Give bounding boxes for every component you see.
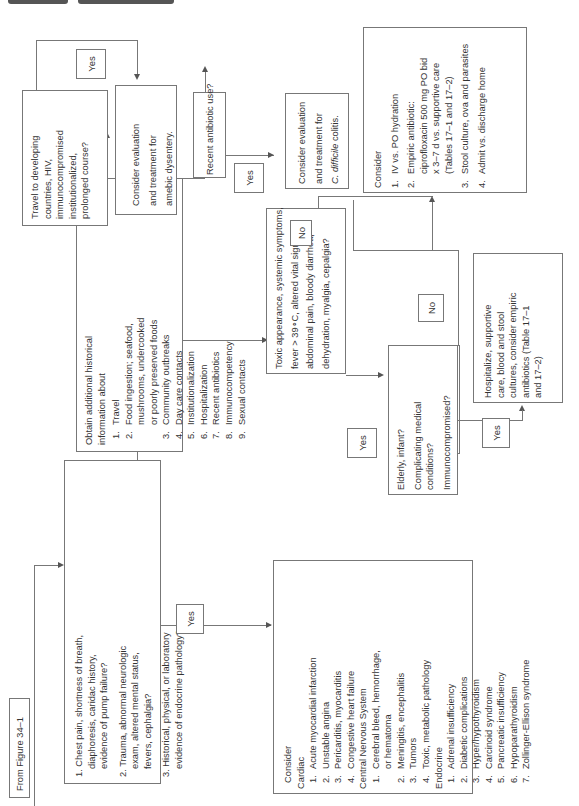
hospitalize-box: Hospitalize, supportive care, blood and … (473, 253, 563, 403)
header-tab-1 (8, 0, 68, 4)
arrow-icon (266, 622, 272, 628)
header-tab-2 (78, 0, 174, 4)
cdiff-box: Consider evaluation and treatment for C.… (285, 93, 349, 189)
connector (183, 178, 205, 179)
connector (346, 375, 382, 376)
no-label: No (290, 220, 312, 246)
yes-label: Yes (234, 163, 264, 193)
differential-box: Consider Cardiac 1.Acute myocardial infa… (273, 560, 473, 794)
outpatient-consider-box: Consider 1.IV vs. PO hydration 2.Empiric… (363, 27, 527, 193)
connector (353, 250, 459, 251)
arrow-icon (429, 196, 435, 202)
connector (183, 340, 265, 341)
connector (346, 375, 347, 376)
initial-questions-box: 1. Chest pain, shortness of breath, diap… (64, 460, 161, 784)
connector (458, 250, 459, 345)
connector (353, 196, 433, 197)
arrow-icon (378, 372, 384, 378)
connector (522, 410, 523, 421)
start-box: From Figure 34–1 (9, 698, 30, 798)
yes-label: Yes (76, 49, 106, 79)
antibiotic-box: Recent antibiotic use? (193, 92, 226, 178)
connector (226, 155, 274, 156)
connector (137, 40, 138, 76)
yes-label: Yes (347, 428, 377, 458)
amebic-box: Consider evaluation and treatment for am… (115, 85, 177, 215)
connector (432, 200, 433, 250)
no-label: No (418, 294, 444, 322)
yes-label: Yes (482, 418, 510, 448)
yes-label: Yes (176, 604, 204, 634)
connector (318, 196, 319, 208)
connector (318, 196, 353, 197)
travel-box: Travel to developing countries, HIV, imm… (22, 90, 108, 226)
arrow-icon (202, 66, 208, 72)
connector (36, 40, 138, 41)
arrow-icon (268, 152, 274, 158)
elderly-box: Elderly, infant? Complicating medical co… (388, 345, 458, 495)
connector (36, 40, 37, 90)
connector (34, 565, 35, 806)
start-label: From Figure 34–1 (14, 717, 27, 791)
connector (353, 200, 354, 251)
arrow-icon (134, 74, 140, 80)
